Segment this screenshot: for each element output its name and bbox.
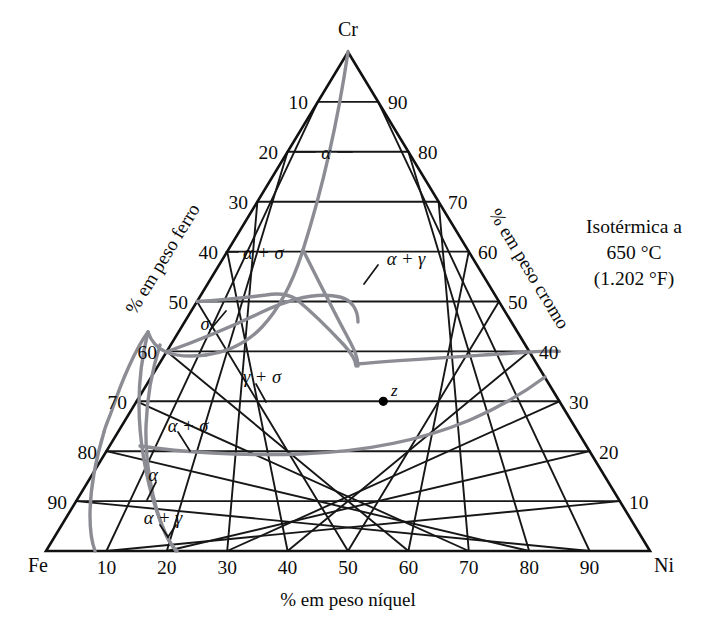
phase-label-alpha-sigma-lower: α + σ xyxy=(168,416,209,436)
right-tick-30: 30 xyxy=(569,392,589,413)
boundary-cr-apex-descending xyxy=(206,52,348,355)
right-tick-40: 40 xyxy=(539,342,559,363)
ternary-phase-diagram: z Cr Fe Ni 10 20 30 40 50 60 70 80 90 10… xyxy=(0,0,706,632)
left-tick-70: 70 xyxy=(108,392,128,413)
bottom-tick-labels: 10 20 30 40 50 60 70 80 90 xyxy=(97,557,600,578)
bottom-tick-30: 30 xyxy=(217,557,237,578)
axis-title-bottom: % em peso níquel xyxy=(280,589,416,610)
phase-label-alpha-sigma-upper: α + σ xyxy=(243,243,284,263)
right-tick-70: 70 xyxy=(448,192,468,213)
leader-alpha-gamma-center xyxy=(364,265,378,284)
right-tick-labels: 90 80 70 60 50 40 30 20 10 xyxy=(388,92,649,513)
phase-label-alpha-lower: α xyxy=(148,465,159,485)
left-tick-30: 30 xyxy=(229,192,249,213)
phase-label-sigma: σ xyxy=(200,314,210,334)
axis-title-right: % em peso cromo xyxy=(485,205,574,333)
right-tick-50: 50 xyxy=(508,292,528,313)
left-tick-40: 40 xyxy=(199,242,219,263)
left-tick-80: 80 xyxy=(78,442,98,463)
left-tick-10: 10 xyxy=(289,92,309,113)
isotherm-line-1: Isotérmica a xyxy=(586,216,682,237)
point-z-label: z xyxy=(390,381,398,400)
vertex-label-cr: Cr xyxy=(338,18,358,40)
left-tick-90: 90 xyxy=(48,492,68,513)
bottom-tick-90: 90 xyxy=(580,557,600,578)
point-z-marker xyxy=(379,397,388,406)
bottom-tick-70: 70 xyxy=(459,557,479,578)
vertex-label-fe: Fe xyxy=(28,554,48,576)
right-tick-10: 10 xyxy=(629,492,649,513)
bottom-tick-80: 80 xyxy=(519,557,539,578)
right-tick-60: 60 xyxy=(478,242,498,263)
right-tick-80: 80 xyxy=(418,142,438,163)
phase-label-gamma-sigma: γ + σ xyxy=(243,367,282,387)
left-tick-50: 50 xyxy=(169,292,189,313)
bottom-tick-50: 50 xyxy=(338,557,358,578)
left-tick-60: 60 xyxy=(138,342,158,363)
vertex-label-ni: Ni xyxy=(654,554,674,576)
boundary-junction-strand-b xyxy=(303,250,358,366)
bottom-tick-20: 20 xyxy=(157,557,177,578)
axis-title-left: % em peso ferro xyxy=(121,200,204,318)
phase-label-alpha-top: α xyxy=(321,143,332,163)
bottom-tick-10: 10 xyxy=(97,557,117,578)
right-tick-20: 20 xyxy=(599,442,619,463)
isotherm-line-3: (1.202 °F) xyxy=(594,268,674,290)
isotherm-line-2: 650 °C xyxy=(607,242,662,263)
right-tick-90: 90 xyxy=(388,92,408,113)
bottom-tick-60: 60 xyxy=(399,557,419,578)
phase-label-alpha-gamma-center: α + γ xyxy=(387,249,426,269)
ternary-diagram-canvas: z Cr Fe Ni 10 20 30 40 50 60 70 80 90 10… xyxy=(0,0,706,632)
bottom-tick-40: 40 xyxy=(278,557,298,578)
left-tick-20: 20 xyxy=(259,142,279,163)
phase-label-alpha-gamma-lower: α + γ xyxy=(144,508,183,528)
tie-line-to-right-axis-40 xyxy=(356,351,559,364)
isotherm-annotation: Isotérmica a 650 °C (1.202 °F) xyxy=(586,216,682,290)
